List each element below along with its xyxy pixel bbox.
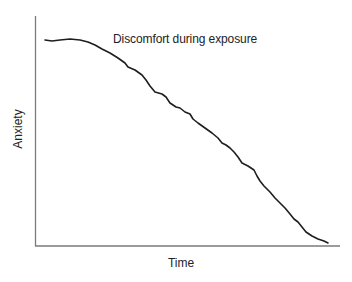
x-axis-label: Time	[0, 256, 352, 270]
curve-annotation: Discomfort during exposure	[113, 32, 257, 46]
anxiety-curve	[45, 39, 328, 243]
y-axis-label: Anxiety	[11, 109, 25, 148]
